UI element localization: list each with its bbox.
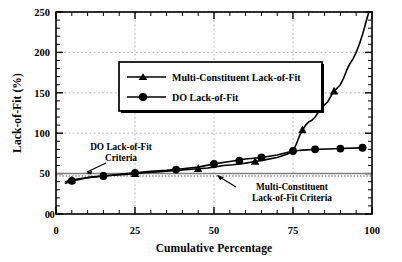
annotation-mc-criteria-line2: Lack-of-Fit Criteria <box>252 193 332 203</box>
series-marker-circle <box>289 147 297 155</box>
series-marker-circle <box>311 145 319 153</box>
legend-label-multi-constituent: Multi-Constituent Lack-of-Fit <box>172 72 301 83</box>
x-axis-title: Cumulative Percentage <box>156 242 273 255</box>
series-marker-circle <box>172 166 180 174</box>
chart-background <box>0 0 402 262</box>
legend-box: Multi-Constituent Lack-of-Fit DO Lack-of… <box>119 62 324 113</box>
series-marker-circle <box>131 169 139 177</box>
y-tick-label: 50 <box>40 168 51 179</box>
x-tick-label: 25 <box>130 225 141 236</box>
annotation-mc-criteria-line1: Multi-Constituent <box>256 182 329 192</box>
y-tick-label: 150 <box>34 88 50 99</box>
series-marker-circle <box>337 145 345 153</box>
series-marker-circle <box>100 172 108 180</box>
legend-shadow-right <box>321 64 324 113</box>
circle-icon <box>139 93 147 101</box>
series-marker-circle <box>68 177 76 185</box>
y-tick-label: 100 <box>34 128 50 139</box>
x-tick-label: 50 <box>209 225 220 236</box>
series-marker-circle <box>258 154 266 162</box>
annotation-do-criteria-line2: Criteria <box>105 153 137 163</box>
legend-frame <box>119 62 322 111</box>
series-marker-circle <box>210 160 218 168</box>
x-origin-label: 0 <box>49 209 54 220</box>
series-marker-circle <box>235 157 243 165</box>
y-axis-title: Lack-of-Fit (%) <box>11 73 24 153</box>
x-tick-label: 0 <box>53 225 58 236</box>
legend-label-do: DO Lack-of-Fit <box>172 92 239 103</box>
chart-figure: 050100150200250 0255075100 Lack-of-Fit (… <box>0 0 402 262</box>
y-tick-label: 200 <box>34 47 50 58</box>
series-marker-circle <box>359 144 367 152</box>
x-tick-label: 75 <box>288 225 299 236</box>
lack-of-fit-line-chart: 050100150200250 0255075100 Lack-of-Fit (… <box>0 0 402 262</box>
legend-shadow-bottom <box>121 110 324 113</box>
x-tick-label: 100 <box>364 225 380 236</box>
annotation-do-criteria-line1: DO Lack-of-Fit <box>90 142 153 152</box>
y-tick-label: 250 <box>34 7 50 18</box>
